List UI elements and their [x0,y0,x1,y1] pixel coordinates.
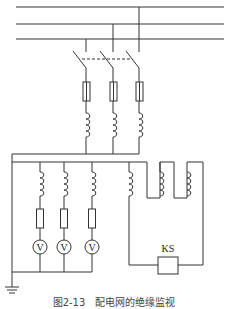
inductor-icon [86,113,90,137]
switch-blade-b [100,51,113,68]
star-secondary: V V V [12,162,99,272]
inductor-icon [113,113,117,137]
neutral-connection [12,154,147,272]
fuse-icon [61,209,68,228]
relay-label: KS [162,243,175,254]
voltmeter-label: V [60,242,68,253]
bus-drops [86,7,139,52]
inductor-icon [187,172,191,196]
insulation-monitoring-diagram: V V V [0,0,228,309]
busbars [16,7,224,39]
inductor-icon [139,113,143,137]
primary-fuses [83,82,143,113]
fuse-icon [37,209,44,228]
figure-caption: 图2-13 配电网的绝缘监视 [53,296,176,308]
three-pole-switch [73,51,139,82]
inductor-icon [160,172,164,196]
inductor-icon [64,172,68,196]
inductor-icon [129,172,133,196]
fuse-icon [89,209,96,228]
open-delta-secondary: KS [129,162,203,274]
primary-windings [86,113,143,154]
voltmeter-label: V [88,242,96,253]
voltmeter-label: V [36,242,44,253]
inductor-icon [40,172,44,196]
inductor-icon [92,172,96,196]
ground-icon [5,272,19,293]
signal-relay-icon [158,257,178,274]
